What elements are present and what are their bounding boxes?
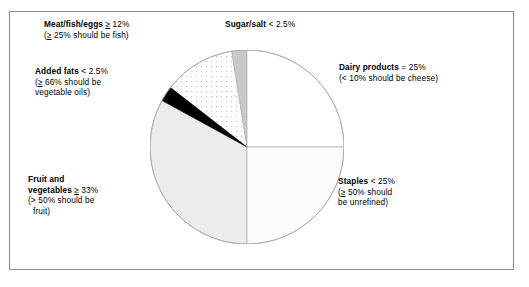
- slice-label-added-fats-note-line2: vegetable oils): [35, 87, 108, 98]
- slice-label-added-fats-title: Added fats: [35, 66, 79, 76]
- slice-label-staples-title-line: Staples < 25%: [338, 176, 395, 187]
- slice-label-fruit-and-vegetables-title-line1: Fruit and: [28, 174, 98, 185]
- slice-label-meat-fish-eggs: Meat/fish/eggs ≥ 12% (≥ 25% should be fi…: [44, 19, 129, 40]
- slice-label-sugar-salt-title-line: Sugar/salt < 2.5%: [225, 19, 295, 30]
- pie-chart-svg: [150, 50, 344, 244]
- slice-label-staples-note-line1: (≥ 50% should: [338, 187, 395, 198]
- slice-label-meat-fish-eggs-title-line: Meat/fish/eggs ≥ 12%: [44, 19, 129, 30]
- pie-slice-dairy-products[interactable]: [247, 50, 344, 147]
- slice-label-dairy-products-title: Dairy products: [339, 62, 399, 72]
- slice-label-added-fats-note-line1: (≥ 66% should be: [35, 77, 108, 88]
- slice-label-staples-title: Staples: [338, 176, 368, 186]
- slice-label-added-fats: Added fats < 2.5% (≥ 66% should be veget…: [35, 66, 108, 98]
- slice-label-meat-fish-eggs-value: 12%: [110, 19, 129, 29]
- slice-label-dairy-products-value: 25%: [406, 62, 425, 72]
- slice-label-fruit-and-vegetables: Fruit and vegetables ≥ 33% (> 50% should…: [28, 174, 98, 216]
- figure-container: Meat/fish/eggs ≥ 12% (≥ 25% should be fi…: [0, 0, 529, 287]
- slice-label-added-fats-value: 2.5%: [86, 66, 108, 76]
- slice-label-staples: Staples < 25% (≥ 50% should be unrefined…: [338, 176, 395, 208]
- slice-label-staples-note-post: 50% should: [346, 187, 393, 197]
- slice-label-fruit-and-vegetables-note-line1: (> 50% should be: [28, 195, 98, 206]
- pie-chart-area: Meat/fish/eggs ≥ 12% (≥ 25% should be fi…: [0, 0, 529, 287]
- slice-label-sugar-salt: Sugar/salt < 2.5%: [225, 19, 295, 30]
- slice-label-sugar-salt-value: 2.5%: [273, 19, 295, 29]
- slice-label-dairy-products: Dairy products = 25% (< 10% should be ch…: [339, 62, 438, 83]
- slice-label-staples-value: 25%: [376, 176, 395, 186]
- slice-label-dairy-products-note: (< 10% should be cheese): [339, 73, 438, 84]
- slice-label-sugar-salt-title: Sugar/salt: [225, 19, 266, 29]
- pie-slice-staples[interactable]: [247, 147, 344, 244]
- slice-label-added-fats-title-line: Added fats < 2.5%: [35, 66, 108, 77]
- slice-label-fruit-and-vegetables-note-line2: fruit): [28, 206, 98, 217]
- slice-label-meat-fish-eggs-note: (≥ 25% should be fish): [44, 30, 129, 41]
- slice-label-fruit-and-vegetables-value: 33%: [79, 185, 98, 195]
- slice-label-added-fats-note-post: 66% should be: [43, 77, 102, 87]
- slice-label-fruit-and-vegetables-title2: vegetables: [28, 185, 72, 195]
- slice-label-dairy-products-title-line: Dairy products = 25%: [339, 62, 438, 73]
- slice-label-fruit-and-vegetables-title-line2: vegetables ≥ 33%: [28, 185, 98, 196]
- slice-label-meat-fish-eggs-title: Meat/fish/eggs: [44, 19, 103, 29]
- slice-label-staples-note-line2: be unrefined): [338, 197, 395, 208]
- slice-label-meat-fish-eggs-note-post: 25% should be fish): [52, 30, 129, 40]
